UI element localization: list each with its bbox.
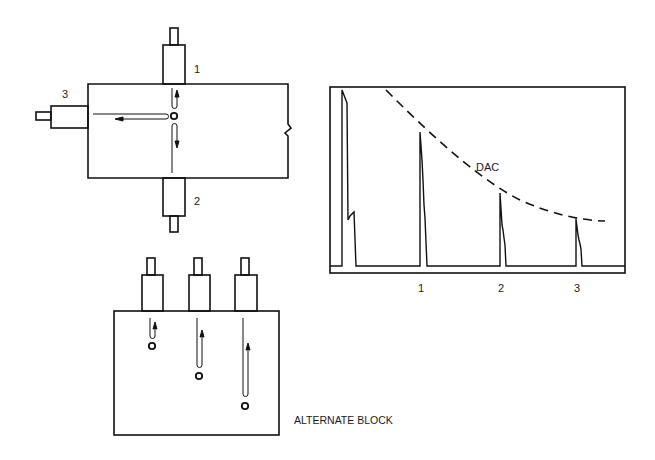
transducer-3-label: 3: [62, 89, 68, 100]
alt-hole-1: [149, 343, 155, 349]
alt-transducer-1: [142, 258, 163, 311]
alt-hole-3: [242, 403, 248, 409]
x-tick-label-3: 3: [574, 283, 580, 294]
transducer-2: [163, 178, 185, 232]
alternate-block-caption: ALTERNATE BLOCK: [294, 415, 393, 426]
dac-curve: [386, 90, 605, 221]
upper-calibration-block: [36, 28, 291, 232]
alt-transducer-3: [235, 258, 257, 311]
alt-transducer-2: [189, 258, 210, 311]
alt-hole-2: [196, 373, 202, 379]
x-tick-label-2: 2: [498, 283, 504, 294]
upper-block-outline: [88, 84, 291, 178]
sound-path-2: [172, 124, 179, 174]
ascan-display: [330, 87, 625, 273]
alternate-block: [114, 258, 279, 435]
alt-sound-path-2: [197, 318, 204, 368]
x-tick-label-1: 1: [418, 283, 424, 294]
signal-trace: [330, 90, 625, 266]
alt-sound-path-1: [150, 318, 157, 339]
sound-path-3: [93, 114, 169, 121]
sound-path-1: [172, 88, 179, 109]
transducer-3: [36, 106, 88, 128]
alt-sound-path-3: [243, 318, 250, 397]
transducer-2-label: 2: [194, 196, 200, 207]
transducer-1-label: 1: [194, 64, 200, 75]
transducer-1: [163, 28, 185, 84]
dac-label: DAC: [476, 162, 499, 173]
diagram-canvas: [0, 0, 655, 460]
reflector-hole: [171, 113, 177, 119]
